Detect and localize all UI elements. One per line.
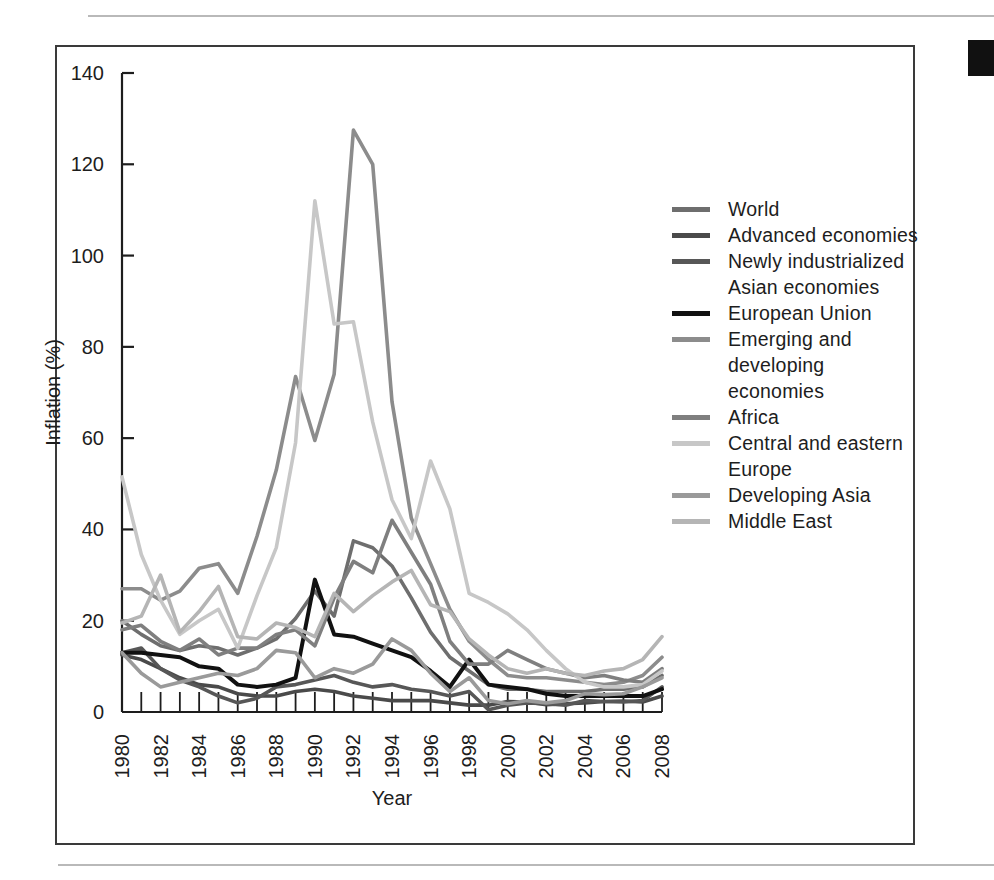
legend-item[interactable]: Newly industrialized Asian economies (672, 248, 922, 300)
y-tick-label: 80 (82, 336, 104, 358)
x-tick-label: 1996 (420, 734, 442, 779)
legend-item[interactable]: World (672, 196, 922, 222)
x-tick-label: 1982 (150, 734, 172, 779)
legend-label-middle-east: Middle East (728, 508, 832, 534)
x-tick-label: 2002 (535, 734, 557, 779)
figure-page: 0204060801001201401980198219841986198819… (0, 0, 994, 880)
x-tick-label: 1998 (458, 734, 480, 779)
legend-label-emerging-and-developing-economies: Emerging and developing economies (728, 326, 922, 404)
y-tick-label: 60 (82, 427, 104, 449)
series-line-middle-east (122, 571, 662, 676)
series-line-emerging-and-developing-economies (122, 130, 662, 685)
legend-swatch-advanced-economies (672, 233, 710, 238)
x-tick-label: 2000 (497, 734, 519, 779)
y-tick-label: 120 (71, 153, 104, 175)
y-tick-label: 40 (82, 518, 104, 540)
legend-swatch-european-union (672, 311, 710, 316)
x-tick-label: 2004 (574, 734, 596, 779)
y-tick-label: 140 (71, 62, 104, 84)
legend-swatch-developing-asia (672, 493, 710, 498)
legend-item[interactable]: Advanced economies (672, 222, 922, 248)
legend-swatch-emerging-and-developing-economies (672, 337, 710, 342)
x-tick-label: 1988 (265, 734, 287, 779)
x-tick-label: 1992 (342, 734, 364, 779)
series-line-central-and-eastern-europe (122, 201, 662, 687)
y-axis-title: Inflation (%) (42, 339, 64, 446)
legend-label-world: World (728, 196, 780, 222)
y-tick-label: 20 (82, 610, 104, 632)
legend-label-newly-industrialized-asian-economies: Newly industrialized Asian economies (728, 248, 904, 300)
y-tick-label: 0 (93, 701, 104, 723)
legend-swatch-central-and-eastern-europe (672, 441, 710, 446)
series-line-africa (122, 520, 662, 682)
x-tick-label: 2006 (612, 734, 634, 779)
series-line-world (122, 541, 662, 692)
x-tick-label: 1980 (111, 734, 133, 779)
x-tick-label: 1994 (381, 734, 403, 779)
legend-label-advanced-economies: Advanced economies (728, 222, 918, 248)
x-tick-label: 1990 (304, 734, 326, 779)
legend-item[interactable]: Middle East (672, 508, 922, 534)
legend-item[interactable]: Emerging and developing economies (672, 326, 922, 404)
legend-item[interactable]: Africa (672, 404, 922, 430)
legend-item[interactable]: Central and eastern Europe (672, 430, 922, 482)
legend-label-european-union: European Union (728, 300, 872, 326)
y-tick-label: 100 (71, 245, 104, 267)
x-tick-label: 1986 (227, 734, 249, 779)
legend-swatch-middle-east (672, 519, 710, 524)
x-tick-label: 2008 (651, 734, 673, 779)
legend-item[interactable]: European Union (672, 300, 922, 326)
x-axis-title: Year (372, 787, 413, 809)
x-tick-label: 1984 (188, 734, 210, 779)
chart-legend: World Advanced economies Newly industria… (672, 196, 922, 534)
legend-swatch-world (672, 207, 710, 212)
legend-swatch-africa (672, 415, 710, 420)
legend-label-africa: Africa (728, 404, 779, 430)
legend-swatch-newly-industrialized-asian-economies (672, 259, 710, 264)
legend-item[interactable]: Developing Asia (672, 482, 922, 508)
legend-label-central-and-eastern-europe: Central and eastern Europe (728, 430, 903, 482)
legend-label-developing-asia: Developing Asia (728, 482, 871, 508)
